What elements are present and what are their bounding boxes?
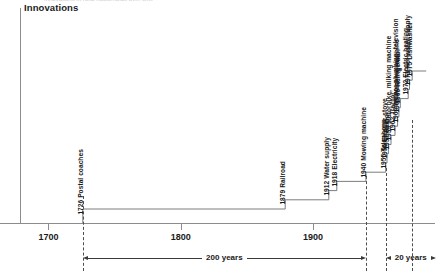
x-tick-label-1800: 1800 [171, 232, 191, 242]
event-label-1726: 1726 Postal coaches [78, 149, 85, 214]
y-axis-line [20, 8, 21, 223]
span-20: 20 years [386, 252, 412, 264]
guide-1975 [412, 120, 413, 271]
guide-1940 [366, 176, 367, 271]
arrow-right-icon [361, 256, 366, 260]
arrow-right-icon [431, 256, 436, 260]
cut-off-subtitle: Innovations in rural households over tim… [44, 0, 153, 1]
event-label-1879: 1879 Railroad [281, 161, 288, 205]
span-line-right [247, 258, 361, 259]
step-path [83, 71, 426, 223]
x-tick-label-1700: 1700 [38, 232, 58, 242]
x-tick-1800 [181, 223, 182, 230]
event-label-1975: 1975 Dishwasher [408, 22, 415, 76]
event-label-1912: 1912 Water supply [324, 137, 331, 196]
span-200-label: 200 years [202, 253, 246, 262]
event-label-1940: 1940 Mowing machine [361, 107, 368, 178]
x-axis-line [0, 223, 435, 224]
page-title: Innovations [24, 2, 78, 13]
x-tick-1900 [313, 223, 314, 230]
span-line-left [88, 258, 202, 259]
x-tick-1700 [48, 223, 49, 230]
span-200: 200 years [83, 252, 366, 264]
span-20-label: 20 years [391, 253, 431, 262]
x-tick-label-1900: 1900 [303, 232, 323, 242]
event-label-1918: 1918 Electricity [332, 138, 339, 187]
